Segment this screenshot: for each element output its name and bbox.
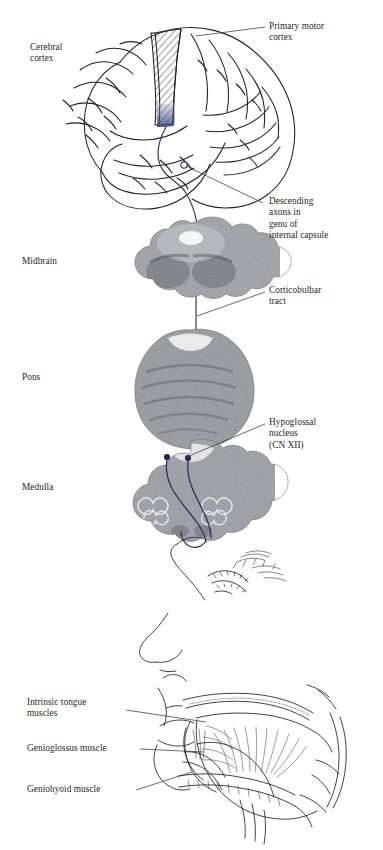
internal-capsule-genu-marker <box>181 162 187 168</box>
label-hypoglossal-nucleus: Hypoglossal nucleus (CN XII) <box>269 417 316 451</box>
label-descending-axons: Descending axons in genu of internal cap… <box>269 196 328 242</box>
neuroanatomy-figure <box>0 0 383 850</box>
label-intrinsic-tongue-muscles: Intrinsic tongue muscles <box>27 697 86 720</box>
label-cerebral-cortex: Cerebral cortex <box>30 42 62 65</box>
label-primary-motor-cortex: Primary motor cortex <box>269 21 324 44</box>
label-geniohyoid-muscle: Geniohyoid muscle <box>27 784 100 795</box>
label-pons: Pons <box>22 372 40 383</box>
label-genioglossus-muscle: Genioglossus muscle <box>27 743 107 754</box>
label-medulla: Medulla <box>22 482 53 493</box>
label-corticobulbar-tract: Corticobulbar tract <box>269 285 321 308</box>
label-midbrain: Midbrain <box>22 256 57 267</box>
nucleus-dot-left <box>164 454 170 460</box>
